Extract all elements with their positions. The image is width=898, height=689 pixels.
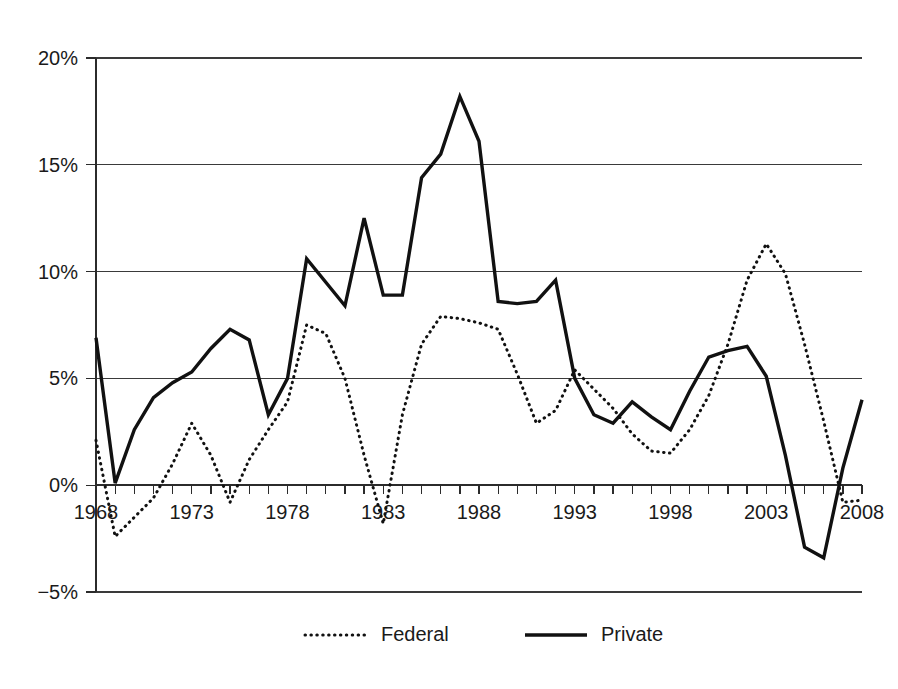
y-axis-tick-label: 10% [38, 261, 78, 283]
legend-label-federal: Federal [381, 623, 449, 645]
x-axis-tick-label: 1968 [74, 501, 119, 523]
y-axis-tick-label: 5% [49, 367, 78, 389]
x-axis-tick-label: 2003 [744, 501, 789, 523]
x-axis-tick-label: 1993 [553, 501, 598, 523]
chart-page: 20%15%10%5%0%−5% 19681973197819831988199… [0, 0, 898, 689]
x-axis-tick-label: 1998 [648, 501, 693, 523]
x-axis-tick-labels: 196819731978198319881993199820032008 [74, 501, 885, 523]
y-axis-tick-label: −5% [37, 581, 78, 603]
x-axis-tick-label: 1973 [170, 501, 215, 523]
x-axis-tick-label: 1988 [457, 501, 502, 523]
x-axis-tick-label: 1978 [265, 501, 310, 523]
y-axis-tick-labels: 20%15%10%5%0%−5% [37, 47, 78, 603]
y-axis-tick-label: 0% [49, 474, 78, 496]
y-axis-tick-label: 15% [38, 154, 78, 176]
y-axis-tick-label: 20% [38, 47, 78, 69]
line-chart: 20%15%10%5%0%−5% 19681973197819831988199… [0, 0, 898, 689]
chart-legend: FederalPrivate [305, 623, 663, 645]
x-axis-tickmarks [96, 485, 862, 494]
legend-label-private: Private [601, 623, 663, 645]
x-axis-tick-label: 2008 [840, 501, 885, 523]
